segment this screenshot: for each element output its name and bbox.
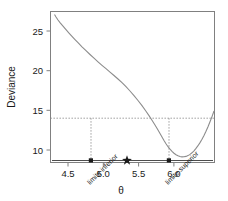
y-tick-label-20: 20 — [32, 65, 43, 76]
deviance-profile-plot: 25 20 15 10 Deviance 4.5 5.0 5.5 6.0 θ — [0, 0, 228, 201]
chart-screenshot: 25 20 15 10 Deviance 4.5 5.0 5.5 6.0 θ — [0, 0, 228, 201]
x-tick-label-5-5: 5.5 — [132, 168, 145, 179]
lower-limit-point-marker — [89, 158, 93, 162]
y-tick-label-25: 25 — [32, 26, 43, 37]
y-axis-ticks — [47, 31, 51, 150]
x-axis-title: θ — [118, 185, 124, 196]
x-tick-label-4-5: 4.5 — [61, 168, 74, 179]
y-tick-label-15: 15 — [32, 105, 43, 116]
y-tick-label-10: 10 — [32, 145, 43, 156]
x-axis-ticks — [68, 163, 174, 167]
upper-limit-point-marker — [167, 158, 171, 162]
plot-frame — [51, 12, 215, 163]
y-axis-title: Deviance — [6, 66, 17, 108]
deviance-curve — [55, 15, 215, 157]
